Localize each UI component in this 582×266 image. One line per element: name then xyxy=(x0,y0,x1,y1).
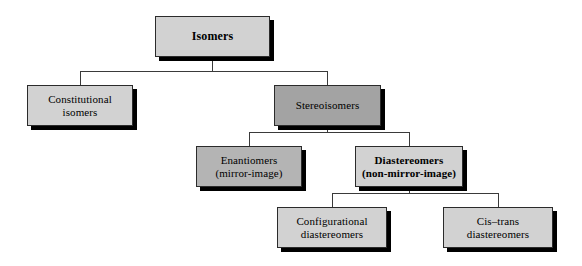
node-cis-trans-diastereomers: Cis–trans diastereomers xyxy=(443,207,553,248)
node-constitutional-isomers: Constitutional isomers xyxy=(27,85,133,126)
edge-stereoisomers-to-children xyxy=(249,126,409,146)
node-configurational-diastereomers: Configurational diastereomers xyxy=(277,207,387,248)
isomer-classification-diagram: Isomers Constitutional isomers Stereoiso… xyxy=(0,0,582,266)
node-enantiomers: Enantiomers (mirror-image) xyxy=(196,146,302,187)
node-stereoisomers: Stereoisomers xyxy=(274,85,381,126)
node-isomers: Isomers xyxy=(155,16,270,57)
node-diastereomers-label: Diastereomers (non-mirror-image) xyxy=(358,154,460,180)
node-isomers-label: Isomers xyxy=(188,29,237,43)
node-diastereomers: Diastereomers (non-mirror-image) xyxy=(355,146,463,187)
edge-isomers-to-children xyxy=(80,57,328,85)
node-cis-trans-diastereomers-label: Cis–trans diastereomers xyxy=(463,215,533,241)
node-configurational-diastereomers-label: Configurational diastereomers xyxy=(292,215,371,241)
edge-diastereomers-to-children xyxy=(332,187,498,207)
node-enantiomers-label: Enantiomers (mirror-image) xyxy=(211,154,286,180)
node-constitutional-isomers-label: Constitutional isomers xyxy=(44,93,116,119)
node-stereoisomers-label: Stereoisomers xyxy=(292,99,364,112)
